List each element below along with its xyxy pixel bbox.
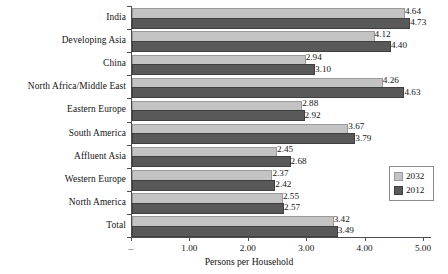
category-label: Total bbox=[0, 220, 126, 230]
category-label: North America bbox=[0, 197, 126, 207]
x-axis-title-text: Persons per Household bbox=[205, 256, 293, 267]
bar-value-label: 2.68 bbox=[291, 157, 307, 166]
bar-value-label: 2.37 bbox=[272, 169, 288, 178]
category-tick bbox=[127, 122, 131, 123]
bar-value-label: 2.55 bbox=[283, 192, 299, 201]
category-tick bbox=[127, 6, 131, 7]
category-label: India bbox=[0, 12, 126, 22]
bar-value-label: 3.49 bbox=[338, 226, 354, 235]
category-tick bbox=[127, 52, 131, 53]
bar-value-label: 3.10 bbox=[315, 65, 331, 74]
category-label: Affluent Asia bbox=[0, 151, 126, 161]
bar-2012 bbox=[132, 156, 291, 167]
bar-value-label: 2.92 bbox=[305, 111, 321, 120]
bar-value-label: 2.42 bbox=[275, 180, 291, 189]
bar-2012 bbox=[132, 133, 355, 144]
bar-2012 bbox=[132, 41, 391, 52]
x-tick bbox=[306, 237, 307, 241]
category-label: Western Europe bbox=[0, 174, 126, 184]
bar-value-label: 4.63 bbox=[404, 88, 420, 97]
bar-value-label: 4.12 bbox=[375, 30, 391, 39]
bar-value-label: 4.26 bbox=[383, 76, 399, 85]
category-tick bbox=[127, 98, 131, 99]
bar-value-label: 4.73 bbox=[410, 18, 426, 27]
bar-value-label: 2.57 bbox=[284, 203, 300, 212]
category-label: North Africa/Middle East bbox=[0, 81, 126, 91]
legend-item-2032[interactable]: 2032 bbox=[394, 171, 424, 181]
bar-2012 bbox=[132, 18, 410, 29]
x-tick-label: – bbox=[111, 243, 151, 253]
category-tick bbox=[127, 145, 131, 146]
x-tick bbox=[131, 237, 132, 241]
category-tick bbox=[127, 214, 131, 215]
category-axis-labels: IndiaDeveloping AsiaChinaNorth Africa/Mi… bbox=[0, 6, 126, 237]
bar-2012 bbox=[132, 64, 315, 75]
category-tick bbox=[127, 29, 131, 30]
x-tick bbox=[423, 237, 424, 241]
bar-2012 bbox=[132, 180, 275, 191]
bar-value-label: 4.64 bbox=[405, 7, 421, 16]
bar-value-label: 3.67 bbox=[348, 122, 364, 131]
bar-value-label: 2.94 bbox=[306, 53, 322, 62]
legend-swatch-2012-icon bbox=[394, 186, 403, 195]
plot-area: 4.644.734.124.402.943.104.264.632.882.92… bbox=[131, 6, 431, 237]
legend-swatch-2032-icon bbox=[394, 172, 403, 181]
category-tick bbox=[127, 191, 131, 192]
bar-2012 bbox=[132, 110, 305, 121]
x-tick-label: 1.00 bbox=[169, 243, 209, 253]
bar-value-label: 2.45 bbox=[277, 145, 293, 154]
legend-label-2012: 2012 bbox=[406, 185, 424, 195]
bar-value-label: 3.79 bbox=[355, 134, 371, 143]
x-axis-line bbox=[131, 237, 431, 238]
x-tick-label: 5.00 bbox=[403, 243, 443, 253]
legend-item-2012[interactable]: 2012 bbox=[394, 185, 424, 195]
category-label: China bbox=[0, 58, 126, 68]
bar-value-label: 4.40 bbox=[391, 41, 407, 50]
bar-value-label: 2.88 bbox=[302, 99, 318, 108]
x-axis-title: Persons per Household bbox=[0, 256, 448, 267]
category-label: Eastern Europe bbox=[0, 104, 126, 114]
category-label: South America bbox=[0, 128, 126, 138]
bar-chart: IndiaDeveloping AsiaChinaNorth Africa/Mi… bbox=[0, 0, 448, 274]
x-tick bbox=[365, 237, 366, 241]
x-tick bbox=[248, 237, 249, 241]
x-tick bbox=[189, 237, 190, 241]
bar-2012 bbox=[132, 226, 338, 237]
category-tick bbox=[127, 75, 131, 76]
x-tick-label: 4.00 bbox=[345, 243, 385, 253]
legend-label-2032: 2032 bbox=[406, 171, 424, 181]
bar-value-label: 3.42 bbox=[334, 215, 350, 224]
x-tick-label: 2.00 bbox=[228, 243, 268, 253]
category-label: Developing Asia bbox=[0, 35, 126, 45]
x-tick-label: 3.00 bbox=[286, 243, 326, 253]
category-tick bbox=[127, 168, 131, 169]
chart-legend: 2032 2012 bbox=[389, 166, 434, 201]
bar-2012 bbox=[132, 87, 404, 98]
bar-2012 bbox=[132, 203, 284, 214]
